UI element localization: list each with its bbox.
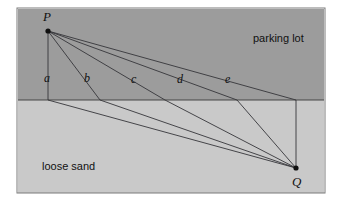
- region-label-parking-lot: parking lot: [253, 32, 304, 44]
- region-label-loose-sand: loose sand: [42, 160, 95, 172]
- path-label-b: b: [84, 71, 90, 85]
- point-dot-Q: [293, 165, 298, 170]
- point-label-Q: Q: [292, 174, 302, 189]
- diagram-svg: parking lotloose sandabcdePQ: [0, 0, 341, 201]
- region-loose-sand: [18, 100, 324, 193]
- point-label-P: P: [42, 9, 51, 24]
- region-parking-lot: [18, 9, 324, 100]
- point-dot-P: [45, 28, 50, 33]
- path-label-a: a: [44, 71, 50, 85]
- path-label-c: c: [131, 72, 137, 86]
- refraction-diagram: parking lotloose sandabcdePQ: [0, 0, 341, 201]
- path-label-e: e: [225, 72, 231, 86]
- path-label-d: d: [177, 72, 184, 86]
